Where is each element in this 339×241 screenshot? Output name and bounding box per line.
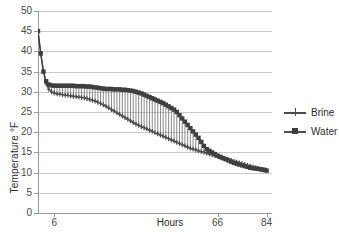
y-axis-title: Temperature °F <box>9 108 20 208</box>
y-tick-label: 0 <box>2 208 32 218</box>
legend-label-brine: Brine <box>306 107 334 118</box>
legend-item-brine[interactable]: Brine <box>284 103 339 122</box>
y-axis-title-host: Temperature °F <box>8 60 20 170</box>
x-tick-label: 6 <box>34 218 74 228</box>
legend-label-water: Water <box>306 126 337 137</box>
line-marker-cross-icon <box>284 107 306 118</box>
chart-legend: Brine Water <box>284 103 339 141</box>
series-water <box>38 29 269 173</box>
y-tick-label: 50 <box>2 6 32 16</box>
series-canvas <box>38 11 272 213</box>
y-tick-label: 45 <box>2 26 32 36</box>
plot-area <box>38 11 272 213</box>
y-tick-label: 40 <box>2 46 32 56</box>
legend-item-water[interactable]: Water <box>284 122 339 141</box>
line-marker-square-icon <box>284 126 306 137</box>
x-axis-line <box>38 213 272 214</box>
temperature-vs-hours-chart: 05101520253035404550 66684 Temperature °… <box>0 0 339 241</box>
x-tick-label: 84 <box>247 218 287 228</box>
x-tick-label: 66 <box>198 218 238 228</box>
x-axis-title: Hours <box>140 217 200 228</box>
